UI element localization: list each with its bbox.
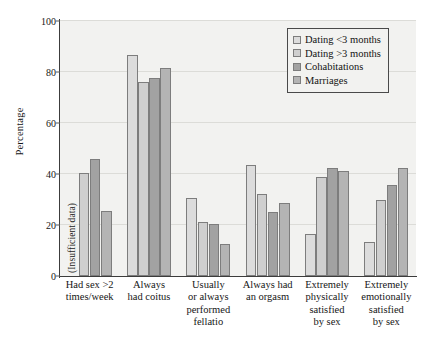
y-tick-mark (56, 123, 60, 124)
x-tick-label-line: Extremely (351, 279, 422, 291)
bar (246, 165, 257, 276)
bar (160, 68, 171, 276)
bar-chart-figure: Percentage 020406080100 (Insufficient da… (0, 0, 430, 339)
legend-swatch-icon (293, 36, 301, 44)
y-tick-label: 20 (30, 220, 56, 231)
bar (327, 168, 338, 276)
bar (79, 173, 90, 276)
x-tick-label-line: fellatio (173, 316, 244, 328)
bar (338, 171, 349, 276)
chart-legend: Dating <3 monthsDating >3 monthsCohabita… (287, 28, 389, 93)
legend-label: Dating >3 months (305, 47, 381, 61)
bar (220, 244, 231, 276)
bar (90, 159, 101, 276)
y-tick-label: 40 (30, 169, 56, 180)
y-tick-mark (56, 276, 60, 277)
bar-group (119, 21, 178, 276)
bar (149, 78, 160, 276)
bar (305, 234, 316, 276)
y-tick-mark (56, 21, 60, 22)
legend-item: Dating <3 months (293, 33, 381, 47)
x-tick-label: Extremelyemotionallysatisfiedby sex (351, 279, 422, 329)
bar (186, 198, 197, 276)
bar (101, 211, 112, 276)
legend-swatch-icon (293, 49, 301, 57)
bar (127, 55, 138, 276)
insufficient-data-annotation: (Insufficient data) (67, 203, 77, 273)
legend-swatch-icon (293, 63, 301, 71)
bar (387, 185, 398, 276)
y-axis-tick-labels: 020406080100 (28, 0, 56, 339)
y-tick-label: 60 (30, 118, 56, 129)
y-tick-mark (56, 72, 60, 73)
legend-label: Cohabitations (305, 60, 363, 74)
legend-label: Dating <3 months (305, 33, 381, 47)
bar (268, 212, 279, 276)
bar-group: (Insufficient data) (60, 21, 119, 276)
y-tick-label: 80 (30, 67, 56, 78)
y-tick-label: 100 (30, 16, 56, 27)
legend-item: Dating >3 months (293, 47, 381, 61)
bar (316, 177, 327, 276)
bar (364, 242, 375, 276)
x-tick-label-line: by sex (351, 316, 422, 328)
y-tick-mark (56, 174, 60, 175)
y-axis-title: Percentage (14, 87, 25, 177)
x-tick-label-line: emotionally (351, 291, 422, 303)
bar (376, 200, 387, 277)
y-tick-mark (56, 225, 60, 226)
legend-item: Marriages (293, 74, 381, 88)
legend-item: Cohabitations (293, 60, 381, 74)
x-tick-label-line: satisfied (351, 304, 422, 316)
y-tick-label: 0 (30, 271, 56, 282)
bar (257, 194, 268, 276)
bar (198, 222, 209, 276)
bar (398, 168, 409, 276)
x-tick-label-line: performed (173, 304, 244, 316)
bar (209, 224, 220, 276)
bar (138, 82, 149, 276)
x-axis-tick-labels: Had sex >2times/weekAlwayshad coitusUsua… (60, 279, 416, 339)
legend-swatch-icon (293, 76, 301, 84)
x-axis-line (59, 276, 417, 277)
legend-label: Marriages (305, 74, 348, 88)
bar (279, 203, 290, 276)
bar-group (179, 21, 238, 276)
